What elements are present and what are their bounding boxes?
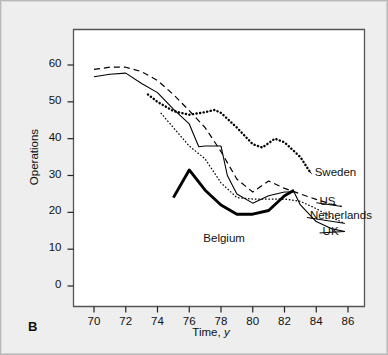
y-tick-label: 50	[28, 94, 62, 106]
series-label-uk: UK	[323, 225, 339, 237]
series-label-belgium: Belgium	[203, 232, 245, 244]
x-axis-title: Time, y	[151, 326, 271, 338]
y-tick-label: 20	[28, 204, 62, 216]
series-label-netherlands: Netherlands	[310, 209, 372, 221]
y-axis-title: Operations	[28, 102, 40, 212]
y-tick-label: 10	[28, 241, 62, 253]
y-tick-label: 0	[28, 278, 62, 290]
y-tick-label: 30	[28, 168, 62, 180]
series-label-sweden: Sweden	[315, 166, 357, 178]
panel-letter: B	[28, 319, 38, 334]
x-axis-title-text: Time,	[192, 326, 224, 338]
y-tick-label: 60	[28, 57, 62, 69]
x-axis-title-variable: y	[224, 326, 230, 338]
y-tick-label: 40	[28, 131, 62, 143]
figure-panel: Operations Time, y B 7072747678808284860…	[0, 0, 388, 355]
series-label-us: US	[319, 195, 335, 207]
x-tick-label: 86	[328, 315, 368, 327]
